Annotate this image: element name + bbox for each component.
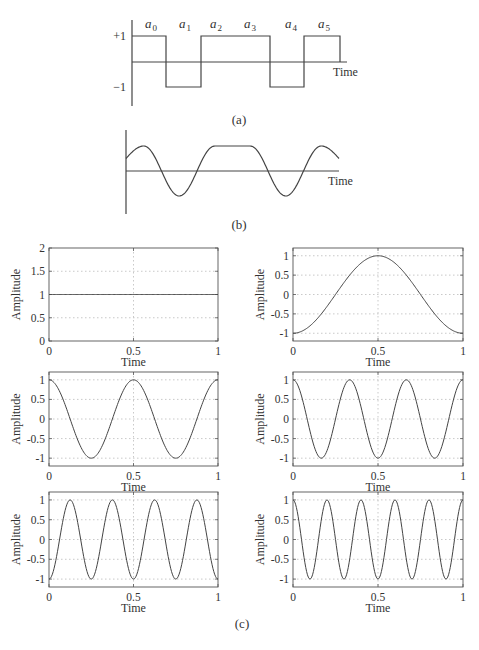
y-tick-label: 1	[39, 289, 45, 301]
x-axis-label: Time	[366, 355, 391, 369]
y-tick-label: 1	[283, 494, 289, 506]
figure-a-binary-sequence: +1 −1 Time a0a1a2a3a4a5 (a)	[113, 16, 358, 127]
x-tick-label: 0	[46, 470, 52, 482]
y-tick-label: 1	[283, 250, 289, 262]
y-tick-label: 0	[283, 534, 289, 546]
y-axis-label: Amplitude	[253, 393, 267, 444]
x-tick-label: 1	[460, 591, 466, 603]
y-tick-label: 0.5	[31, 393, 46, 405]
fig-a-symbol-a2: a2	[210, 16, 222, 33]
y-tick-label: 0.5	[31, 312, 46, 324]
fig-a-symbol-a3: a3	[244, 16, 257, 33]
y-tick-label: 0	[39, 335, 45, 347]
x-tick-label: 1	[215, 591, 221, 603]
y-tick-label: -0.5	[271, 553, 289, 565]
figure-canvas: +1 −1 Time a0a1a2a3a4a5 (a) Time (b) 00.…	[0, 0, 479, 650]
y-tick-label: -0.5	[27, 553, 45, 565]
fig-a-symbol-a1: a1	[179, 16, 191, 33]
y-tick-label: 1	[283, 374, 289, 386]
x-axis-label: Time	[366, 601, 391, 615]
y-tick-label: -1	[279, 452, 289, 464]
x-axis-label: Time	[121, 601, 146, 615]
x-tick-label: 0	[290, 345, 296, 357]
y-tick-label: -0.5	[271, 433, 289, 445]
y-tick-label: 1	[39, 374, 45, 386]
subplot-5: -1-0.500.5100.51TimeAmplitude	[9, 492, 221, 615]
x-tick-label: 0	[46, 591, 52, 603]
y-tick-label: 0	[283, 289, 289, 301]
y-tick-label: 0.5	[31, 514, 46, 526]
fig-a-plus-one-label: +1	[113, 29, 126, 43]
fig-c-caption: (c)	[235, 616, 249, 631]
x-tick-label: 0	[46, 345, 52, 357]
y-axis-label: Amplitude	[253, 269, 267, 320]
x-tick-label: 0	[290, 591, 296, 603]
x-tick-label: 1	[215, 345, 221, 357]
y-tick-label: 1.5	[31, 265, 46, 277]
y-tick-label: 0	[283, 413, 289, 425]
fig-a-symbol-a0: a0	[145, 16, 158, 33]
y-tick-label: -0.5	[271, 308, 289, 320]
y-tick-label: 0.5	[275, 393, 290, 405]
subplot-4: -1-0.500.5100.51TimeAmplitude	[253, 372, 466, 494]
y-tick-label: -1	[279, 327, 289, 339]
y-tick-label: 2	[39, 242, 45, 254]
y-axis-label: Amplitude	[9, 514, 23, 565]
figure-c-fourier-components: 00.511.5200.51TimeAmplitude-1-0.500.5100…	[9, 242, 466, 615]
y-axis-label: Amplitude	[9, 393, 23, 444]
fig-a-symbol-a4: a4	[285, 16, 298, 33]
y-axis-label: Amplitude	[253, 514, 267, 565]
y-tick-label: 0.5	[275, 269, 290, 281]
x-axis-label: Time	[121, 355, 146, 369]
x-tick-label: 1	[215, 470, 221, 482]
fig-b-time-label: Time	[328, 174, 353, 188]
fig-a-bit-symbols: a0a1a2a3a4a5	[145, 16, 331, 33]
y-tick-label: -1	[35, 452, 45, 464]
y-tick-label: 0	[39, 534, 45, 546]
y-tick-label: -1	[279, 573, 289, 585]
y-axis-label: Amplitude	[9, 269, 23, 320]
subplot-3: -1-0.500.5100.51TimeAmplitude	[9, 372, 221, 494]
subplot-1: 00.511.5200.51TimeAmplitude	[9, 242, 221, 369]
fig-a-time-label: Time	[333, 65, 358, 79]
x-tick-label: 1	[460, 345, 466, 357]
fig-a-symbol-a5: a5	[318, 16, 331, 33]
y-tick-label: -0.5	[27, 433, 45, 445]
y-tick-label: 0	[39, 413, 45, 425]
figure-b-smoothed-waveform: Time (b)	[126, 130, 353, 232]
x-tick-label: 0	[290, 470, 296, 482]
y-tick-label: 1	[39, 494, 45, 506]
fig-a-caption: (a)	[232, 112, 246, 127]
subplot-2: -1-0.500.5100.51TimeAmplitude	[253, 248, 466, 369]
fig-a-minus-one-label: −1	[113, 80, 126, 94]
y-tick-label: 0.5	[275, 514, 290, 526]
fig-b-caption: (b)	[231, 217, 246, 232]
subplot-6: -1-0.500.5100.51TimeAmplitude	[253, 492, 466, 615]
y-tick-label: -1	[35, 573, 45, 585]
x-tick-label: 1	[460, 470, 466, 482]
